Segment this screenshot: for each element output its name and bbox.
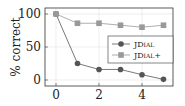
chart: 050100 024 % correct JDialJDial+ bbox=[0, 0, 185, 106]
y-axis-label: % correct bbox=[9, 17, 23, 76]
y-tick-label: 0 bbox=[33, 73, 41, 87]
x-tick-label: 4 bbox=[138, 88, 146, 102]
x-tick-label: 0 bbox=[52, 88, 60, 102]
legend-label: JDial bbox=[133, 40, 154, 49]
legend-label: JDial+ bbox=[133, 51, 161, 60]
y-tick-label: 50 bbox=[26, 40, 41, 54]
x-tick-label: 2 bbox=[95, 88, 103, 102]
legend: JDialJDial+ bbox=[108, 36, 173, 63]
